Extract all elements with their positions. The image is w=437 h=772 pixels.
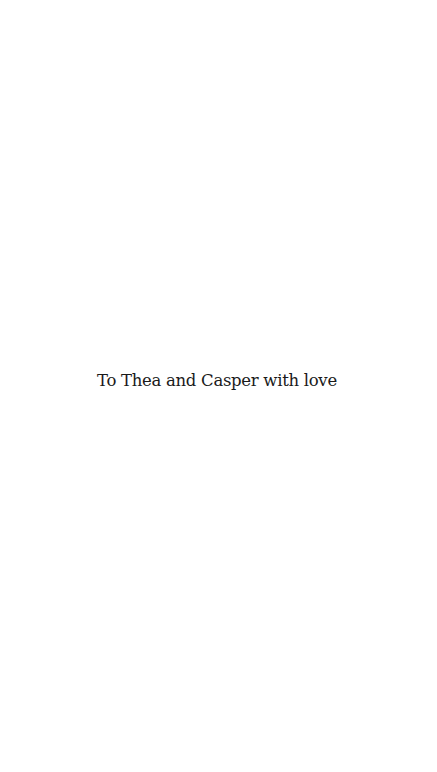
dedication-page: To Thea and Casper with love [0, 0, 437, 772]
dedication-text: To Thea and Casper with love [97, 370, 337, 392]
